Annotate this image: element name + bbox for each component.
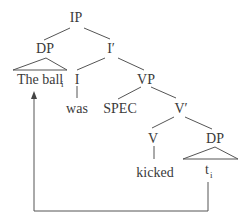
node-i: I [75,72,80,87]
node-v: V [148,131,158,146]
edge-vbar-dp [185,117,212,129]
node-dp-subject: DP [36,41,54,56]
edge-vp-vbar [151,87,176,98]
node-v-bar: V′ [174,101,187,116]
node-trace-subscript: i [210,170,213,180]
edge-ip-dp [44,28,70,40]
arrowhead-icon [31,91,37,99]
node-the-ball: The ball [17,72,63,87]
syntax-tree-diagram: IP DP I′ The ball i I VP was SPEC V′ V D… [0,0,251,222]
edge-ibar-i [77,58,105,70]
node-the-ball-subscript: i [61,79,64,89]
edge-vbar-v [152,117,174,128]
edge-ibar-vp [118,58,144,70]
node-spec: SPEC [103,101,136,116]
node-vp: VP [137,72,155,87]
node-kicked: kicked [136,165,173,180]
triangle-dp-object [183,147,238,159]
edge-vp-spec [118,87,141,99]
node-trace: t [205,162,209,177]
node-i-bar: I′ [107,41,115,56]
edge-ip-ibar [84,28,110,39]
node-dp-object: DP [206,131,224,146]
node-was: was [66,101,88,116]
triangle-dp-subject [13,58,67,70]
node-ip: IP [70,10,83,25]
